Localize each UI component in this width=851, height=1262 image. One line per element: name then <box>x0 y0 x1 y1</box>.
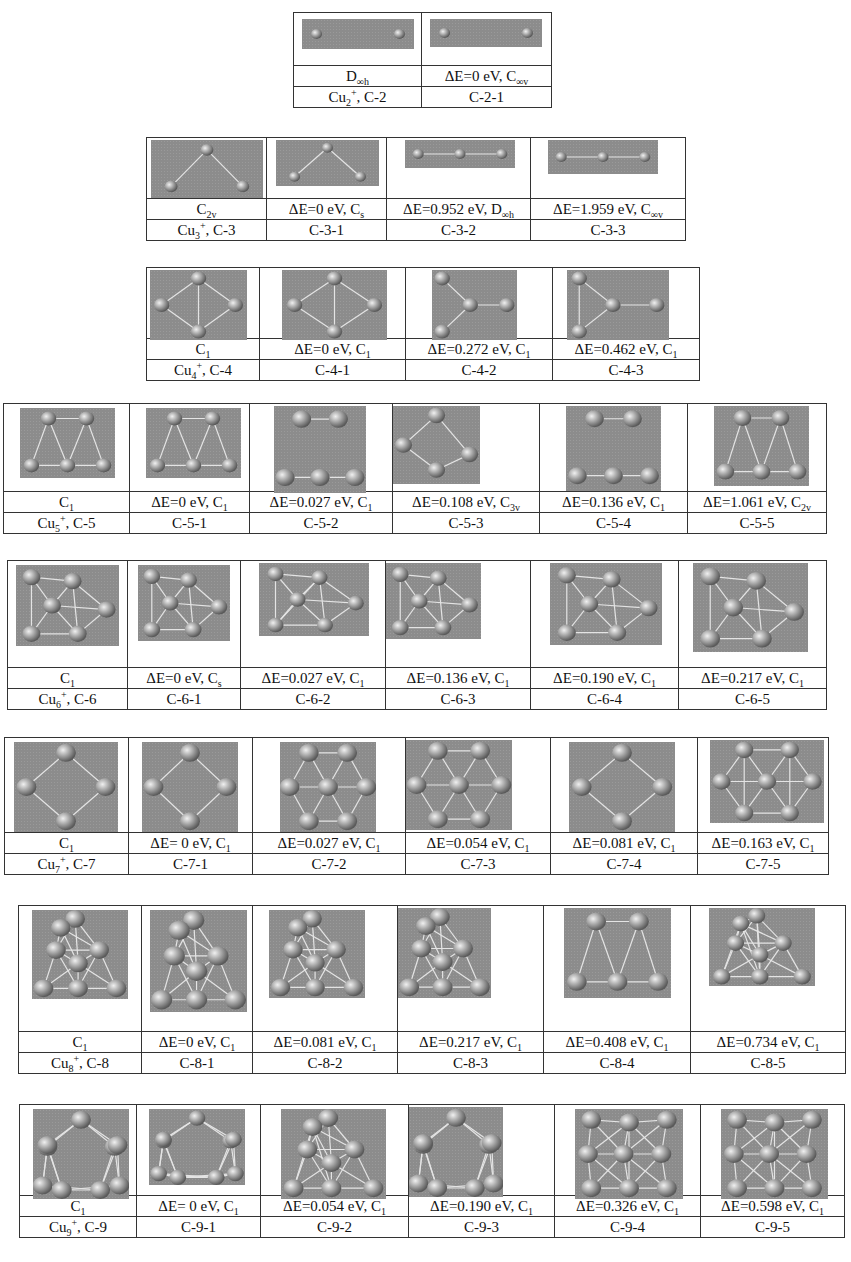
isomer-structure-image <box>698 738 829 833</box>
isomer-energy-symmetry: ΔE=0.190 eV, C1 <box>531 668 679 689</box>
reference-symmetry: C1 <box>19 1032 142 1053</box>
isomer-energy-symmetry: ΔE=0 eV, C1 <box>260 339 406 360</box>
molecule-icon <box>548 140 658 174</box>
reference-symmetry: C1 <box>4 492 130 513</box>
isomer-structure-image <box>691 906 846 1032</box>
isomer-structure-image <box>241 561 386 668</box>
cluster-table-cu6-plus: C1ΔE=0 eV, CsΔE=0.027 eV, C1ΔE=0.136 eV,… <box>7 560 827 710</box>
isomer-structure-image <box>130 404 250 492</box>
reference-symmetry: C1 <box>147 339 260 360</box>
isomer-structure-image <box>386 561 531 668</box>
isomer-id: C-8-1 <box>142 1053 253 1074</box>
isomer-energy-symmetry: ΔE=0.027 eV, C1 <box>253 833 406 854</box>
isomer-structure-image <box>267 138 387 199</box>
isomer-id: C-5-2 <box>250 513 393 534</box>
molecule-icon <box>281 1109 386 1199</box>
molecule-icon <box>398 908 491 998</box>
isomer-id: C-9-5 <box>701 1217 845 1238</box>
isomer-structure-image <box>128 561 241 668</box>
molecule-icon <box>33 1109 129 1199</box>
molecule-icon <box>282 270 387 340</box>
isomer-energy-symmetry: ΔE=0.408 eV, C1 <box>544 1032 691 1053</box>
isomer-structure-image <box>393 404 540 492</box>
isomer-id: C-5-5 <box>688 513 827 534</box>
isomer-structure-image <box>137 1105 261 1196</box>
molecule-icon <box>432 270 517 340</box>
reference-structure-image <box>4 404 130 492</box>
molecule-icon <box>259 563 369 636</box>
isomer-id: C-6-4 <box>531 689 679 710</box>
isomer-structure-image <box>544 906 691 1032</box>
cluster-table-cu9-plus: C1ΔE= 0 eV, C1ΔE=0.054 eV, C1ΔE=0.190 eV… <box>19 1104 845 1238</box>
molecule-icon <box>564 908 671 998</box>
isomer-id: C-4-2 <box>406 360 553 381</box>
isomer-id: C-3-2 <box>387 220 531 241</box>
isomer-energy-symmetry: ΔE=0 eV, C1 <box>142 1032 253 1053</box>
isomer-energy-symmetry: ΔE=0.217 eV, C1 <box>679 668 827 689</box>
molecule-icon <box>721 1109 828 1199</box>
isomer-id: C-5-4 <box>540 513 688 534</box>
isomer-id: C-9-1 <box>137 1217 261 1238</box>
molecule-icon <box>550 563 662 645</box>
isomer-id: C-7-1 <box>129 854 253 875</box>
molecule-icon <box>709 908 815 986</box>
isomer-id: C-8-2 <box>253 1053 398 1074</box>
reference-structure-image <box>5 738 129 833</box>
isomer-energy-symmetry: ΔE=0 eV, Cs <box>267 199 387 220</box>
isomer-energy-symmetry: ΔE=0.734 eV, C1 <box>691 1032 846 1053</box>
molecule-icon <box>276 140 379 186</box>
isomer-id: C-6-2 <box>241 689 386 710</box>
molecule-icon <box>409 1107 503 1197</box>
cluster-label: Cu8+, C-8 <box>19 1053 142 1074</box>
isomer-energy-symmetry: ΔE=1.959 eV, C∞v <box>531 199 686 220</box>
molecule-icon <box>567 270 669 340</box>
isomer-id: C-6-3 <box>386 689 531 710</box>
isomer-energy-symmetry: ΔE=0.462 eV, C1 <box>553 339 700 360</box>
isomer-id: C-8-5 <box>691 1053 846 1074</box>
isomer-structure-image <box>679 561 827 668</box>
isomer-structure-image <box>129 738 253 833</box>
isomer-id: C-7-4 <box>551 854 698 875</box>
cluster-table-cu8-plus: C1ΔE=0 eV, C1ΔE=0.081 eV, C1ΔE=0.217 eV,… <box>18 905 846 1074</box>
reference-structure-image <box>294 13 422 66</box>
reference-structure-image <box>8 561 128 668</box>
isomer-structure-image <box>406 268 553 339</box>
isomer-structure-image <box>406 738 551 833</box>
isomer-id: C-9-2 <box>261 1217 409 1238</box>
molecule-icon <box>302 19 414 49</box>
cluster-label: Cu2+, C-2 <box>294 87 422 108</box>
molecule-icon <box>386 563 481 639</box>
isomer-energy-symmetry: ΔE=0.190 eV, C1 <box>409 1196 555 1217</box>
isomer-structure-image <box>409 1105 555 1196</box>
isomer-id: C-3-1 <box>267 220 387 241</box>
molecule-icon <box>393 406 480 484</box>
isomer-structure-image <box>142 906 253 1032</box>
molecule-icon <box>149 1109 245 1185</box>
isomer-id: C-8-3 <box>398 1053 544 1074</box>
isomer-structure-image <box>553 268 700 339</box>
isomer-energy-symmetry: ΔE=0.136 eV, C1 <box>540 492 688 513</box>
cluster-label: Cu5+, C-5 <box>4 513 130 534</box>
reference-symmetry: C1 <box>5 833 129 854</box>
molecule-icon <box>14 742 118 832</box>
isomer-energy-symmetry: ΔE=0.108 eV, C3v <box>393 492 540 513</box>
isomer-energy-symmetry: ΔE=0.081 eV, C1 <box>551 833 698 854</box>
isomer-energy-symmetry: ΔE=0.027 eV, C1 <box>250 492 393 513</box>
isomer-id: C-4-3 <box>553 360 700 381</box>
reference-structure-image <box>19 906 142 1032</box>
isomer-energy-symmetry: ΔE=0.027 eV, C1 <box>241 668 386 689</box>
molecule-icon <box>151 140 263 198</box>
isomer-structure-image <box>398 906 544 1032</box>
isomer-structure-image <box>260 268 406 339</box>
isomer-energy-symmetry: ΔE=0.272 eV, C1 <box>406 339 553 360</box>
molecule-icon <box>142 742 238 832</box>
isomer-id: C-5-1 <box>130 513 250 534</box>
reference-structure-image <box>147 138 267 199</box>
cluster-label: Cu9+, C-9 <box>20 1217 137 1238</box>
molecule-icon <box>150 910 247 1012</box>
isomer-id: C-7-2 <box>253 854 406 875</box>
isomer-structure-image <box>253 906 398 1032</box>
isomer-structure-image <box>250 404 393 492</box>
isomer-id: C-6-1 <box>128 689 241 710</box>
molecule-icon <box>16 565 119 646</box>
